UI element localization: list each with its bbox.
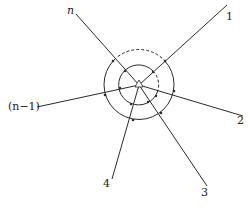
- arrow-marker: [124, 70, 126, 72]
- branch-label-1: 1: [226, 11, 233, 22]
- arrow-marker: [130, 103, 132, 105]
- arrow-marker: [132, 119, 135, 122]
- arrow-marker: [119, 87, 121, 89]
- branch-line-2: [139, 85, 243, 116]
- arrow-marker: [104, 94, 107, 97]
- outer-contour-solid: [104, 60, 174, 119]
- branch-label-n-minus-1: (n−1): [8, 101, 40, 112]
- branch-point-triangle: [135, 80, 143, 87]
- branch-label-n: n: [67, 5, 74, 16]
- arrow-marker: [173, 90, 176, 93]
- arrow-marker: [112, 60, 115, 63]
- branch-label-4: 4: [103, 178, 110, 189]
- branch-line-3: [139, 85, 207, 186]
- diagram-canvas: n 1 2 3 4 (n−1): [0, 0, 252, 209]
- inner-contour-dashed: [153, 71, 159, 90]
- outer-contour-dashed: [114, 49, 164, 60]
- arrow-marker: [155, 95, 157, 97]
- branch-line-4: [112, 85, 139, 179]
- branch-line-n-minus-1: [37, 85, 139, 107]
- branch-line-1: [139, 5, 227, 85]
- arrow-marker: [164, 60, 167, 63]
- branch-label-3: 3: [201, 187, 208, 198]
- arrow-marker: [152, 71, 154, 73]
- arrow-marker: [147, 101, 149, 103]
- branch-line-n: [76, 14, 139, 85]
- arrow-marker: [160, 112, 163, 115]
- branch-label-2: 2: [237, 115, 244, 126]
